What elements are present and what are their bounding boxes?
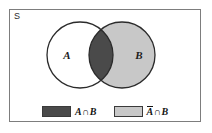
venn-diagram-figure: S A B A∩B A∩B [0,0,212,133]
legend-label-a-intersect-b: A∩B [75,106,97,117]
legend-swatch-b-only [114,106,143,117]
intersection-operator-icon: ∩ [82,106,90,117]
legend-swatch-intersection [42,106,71,117]
legend-operand-b: B [161,106,168,117]
legend-item-a-intersect-b: A∩B [42,106,97,117]
legend-label-not-a-intersect-b: A∩B [147,106,169,117]
set-a-letter: A [62,49,70,61]
legend-item-not-a-intersect-b: A∩B [114,106,169,117]
legend-operand-b: B [90,106,97,117]
legend-operand-a: A [75,106,82,117]
legend: A∩B A∩B [9,100,201,122]
set-b-letter: B [134,49,142,61]
